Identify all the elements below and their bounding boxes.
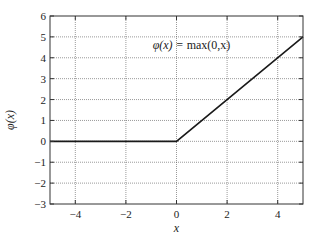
y-tick-label: −2: [34, 177, 46, 189]
x-tick-label: −4: [69, 208, 81, 220]
y-tick-label: 6: [41, 10, 47, 22]
y-tick-label: 3: [41, 73, 47, 85]
y-tick-label: −3: [34, 198, 46, 210]
y-tick-label: 4: [41, 52, 47, 64]
y-tick-label: 5: [41, 31, 47, 43]
x-tick-label: 0: [174, 208, 180, 220]
y-tick-labels: −3−2−10123456: [34, 10, 46, 210]
x-tick-label: −2: [120, 208, 132, 220]
annotation-rhs: max(0,x): [187, 38, 231, 52]
y-tick-label: 2: [41, 94, 47, 106]
y-tick-label: 1: [41, 114, 47, 126]
x-tick-label: 2: [224, 208, 230, 220]
relu-chart: −4−2024 −3−2−10123456 x φ(x) φ(x) = max(…: [0, 0, 322, 238]
x-axis-label: x: [173, 221, 180, 235]
annotation-lhs: φ(x) =: [153, 38, 187, 52]
y-tick-label: 0: [41, 135, 47, 147]
x-tick-label: 4: [275, 208, 281, 220]
y-tick-label: −1: [34, 156, 46, 168]
function-annotation: φ(x) = max(0,x): [153, 38, 231, 52]
y-axis-label: φ(x): [3, 110, 17, 130]
x-tick-labels: −4−2024: [69, 208, 281, 220]
